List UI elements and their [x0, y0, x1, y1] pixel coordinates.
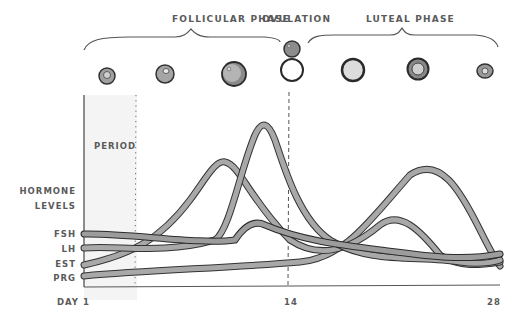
y-axis-title-line2: LEVELS — [16, 201, 76, 211]
follicle-stage-2 — [156, 65, 174, 83]
corpus-luteum-regressing — [408, 59, 429, 80]
x-axis — [84, 285, 500, 287]
follicle-stage-1 — [99, 68, 115, 84]
ovulation-line — [288, 92, 289, 287]
follicle-stage-3 — [222, 62, 246, 86]
x-tick-day-14: 14 — [284, 297, 298, 307]
x-tick-day-28: 28 — [487, 297, 501, 307]
hormone-curves — [84, 125, 500, 276]
luteal-phase-label: LUTEAL PHASE — [366, 14, 455, 24]
luteal-brace — [308, 28, 498, 47]
corpus-albicans — [477, 64, 493, 78]
prg-label: PRG — [16, 273, 76, 283]
x-tick-day-1: DAY 1 — [57, 297, 90, 307]
period-label: PERIOD — [94, 141, 136, 151]
corpus-luteum — [342, 59, 364, 81]
est-label: EST — [16, 259, 76, 269]
follicle-ovulation — [281, 41, 303, 81]
fsh-label: FSH — [16, 229, 76, 239]
follicular-brace — [84, 29, 280, 50]
ovulation-label: OVULATION — [262, 14, 331, 24]
menstrual-cycle-diagram — [0, 0, 529, 323]
lh-label: LH — [16, 244, 76, 254]
y-axis-title-line1: HORMONE — [16, 186, 76, 196]
